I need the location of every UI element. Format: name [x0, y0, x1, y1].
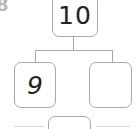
connector-line-top [73, 37, 74, 50]
answer-guide-line-left [14, 126, 44, 127]
part-value-left: 9 [27, 71, 43, 100]
whole-box: 10 [52, 0, 98, 37]
problem-number: 8 [0, 0, 9, 15]
connector-line-right [112, 50, 113, 62]
connector-line-left [35, 50, 36, 62]
connector-line-horizontal [35, 50, 113, 51]
whole-value: 10 [58, 1, 92, 30]
part-box-left: 9 [14, 62, 56, 108]
answer-box[interactable] [48, 116, 91, 129]
part-box-right[interactable] [89, 62, 132, 108]
answer-guide-line-right [96, 126, 130, 127]
